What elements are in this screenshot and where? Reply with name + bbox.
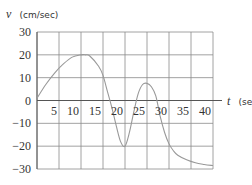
- x-tick-label: 30: [155, 104, 167, 118]
- y-tick-label: 0: [25, 94, 31, 108]
- x-axis-variable: t: [227, 94, 231, 108]
- x-tick-label: 15: [89, 104, 101, 118]
- x-tick-label: 20: [111, 104, 123, 118]
- x-tick-labels: 510152025303540: [51, 104, 211, 118]
- y-axis-variable: v: [6, 7, 12, 21]
- velocity-time-chart: 3020100−10−20−30 510152025303540 v (cm/s…: [0, 0, 252, 185]
- x-axis-label: t (sec): [227, 90, 252, 109]
- x-tick-label: 25: [133, 104, 145, 118]
- x-tick-label: 10: [67, 104, 79, 118]
- y-tick-label: 20: [19, 48, 31, 62]
- x-tick-label: 35: [177, 104, 189, 118]
- x-axis-unit: (sec): [238, 97, 252, 107]
- y-axis-label: v (cm/sec): [6, 3, 58, 22]
- y-tick-label: −20: [12, 139, 31, 153]
- y-tick-label: −30: [12, 162, 31, 176]
- x-tick-label: 40: [199, 104, 211, 118]
- y-tick-label: 30: [19, 25, 31, 39]
- y-tick-label: −10: [12, 116, 31, 130]
- axes: [37, 32, 222, 169]
- y-tick-labels: 3020100−10−20−30: [12, 25, 31, 176]
- x-tick-label: 5: [51, 104, 57, 118]
- y-axis-unit: (cm/sec): [19, 10, 58, 20]
- y-tick-label: 10: [19, 71, 31, 85]
